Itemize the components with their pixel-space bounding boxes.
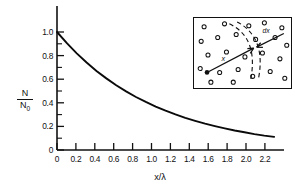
x-axis-title: x/λ [154, 172, 166, 182]
x-tick-label: 0.4 [89, 154, 100, 164]
x-tick-label: 1.8 [222, 154, 233, 164]
x-tick-label: 1.2 [165, 154, 176, 164]
inset-canvas: x dx [194, 18, 291, 88]
scatter-centers [198, 21, 289, 84]
y-tick-label: 1.0 [42, 27, 53, 37]
x-tick-label: 2.2 [260, 154, 271, 164]
x-tick-label: 0.8 [127, 154, 138, 164]
x-tick-label: 1.4 [184, 154, 195, 164]
x-tick-label: 1.6 [203, 154, 214, 164]
figure-root: 0 0.2 0.4 0.6 0.8 1.0 0 0.2 0.4 0.6 0.8 … [0, 0, 295, 191]
dx-pointer-arrow [257, 34, 284, 48]
y-tick-label: 0.8 [42, 51, 53, 61]
x-tick-label: 2.0 [241, 154, 252, 164]
shell-inner-arc [229, 24, 252, 79]
y-tick-label: 0.6 [42, 74, 53, 84]
y-axis-title-numerator: N [11, 89, 39, 98]
x-axis-ticks [57, 143, 265, 150]
path-length-arrow [207, 48, 254, 72]
y-tick-label: 0.4 [42, 98, 53, 108]
x-tick-labels: 0 0.2 0.4 0.6 0.8 1.0 1.2 1.4 1.6 1.8 2.… [55, 154, 271, 164]
source-point [205, 70, 210, 75]
y-tick-label: 0 [49, 145, 54, 155]
inset-label-x: x [221, 54, 226, 63]
x-tick-label: 0.6 [108, 154, 119, 164]
y-tick-labels: 0 0.2 0.4 0.6 0.8 1.0 [42, 27, 53, 155]
inset-label-dx: dx [262, 27, 270, 34]
x-tick-label: 1.0 [146, 154, 157, 164]
x-tick-label: 0.2 [71, 154, 82, 164]
inset-diagram: x dx [193, 17, 292, 89]
y-tick-label: 0.2 [42, 121, 53, 131]
y-axis-title-denominator: N0 [11, 101, 39, 113]
y-axis-title: N N0 [11, 89, 39, 113]
x-tick-label: 0 [55, 154, 60, 164]
